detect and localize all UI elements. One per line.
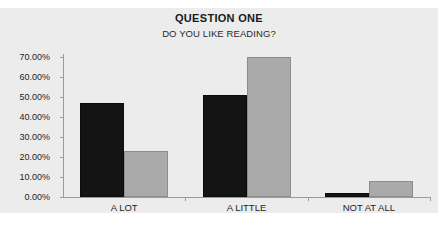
y-axis-tick-label: 70.00% — [0, 52, 50, 62]
chart-subtitle: DO YOU LIKE READING? — [0, 28, 438, 39]
bar-1-2 — [369, 181, 413, 197]
plot-area: 0.00%10.00%20.00%30.00%40.00%50.00%60.00… — [63, 50, 430, 197]
y-axis-tick-mark — [60, 57, 63, 58]
chart-title: QUESTION ONE — [0, 12, 438, 24]
x-axis-category-label: A LOT — [111, 202, 138, 213]
bar-1-1 — [247, 57, 291, 197]
y-axis-tick-label: 20.00% — [0, 152, 50, 162]
y-axis-tick-label: 10.00% — [0, 172, 50, 182]
y-axis-tick-mark — [60, 177, 63, 178]
x-axis-tick-mark — [308, 197, 309, 201]
y-axis-tick-mark — [60, 97, 63, 98]
x-axis-tick-mark — [185, 197, 186, 201]
bar-0-1 — [203, 95, 247, 197]
x-axis-tick-mark — [430, 197, 431, 201]
y-axis-tick-mark — [60, 77, 63, 78]
chart-container: QUESTION ONE DO YOU LIKE READING? 0.00%1… — [0, 0, 438, 234]
x-axis-category-label: A LITTLE — [227, 202, 267, 213]
y-axis-tick-mark — [60, 117, 63, 118]
y-axis-line — [63, 54, 64, 198]
x-axis-category-label: NOT AT ALL — [343, 202, 395, 213]
y-axis-tick-mark — [60, 157, 63, 158]
bar-1-0 — [124, 151, 168, 197]
y-axis-tick-label: 50.00% — [0, 92, 50, 102]
x-axis-line — [63, 197, 430, 198]
y-axis-tick-label: 0.00% — [0, 192, 50, 202]
bar-0-0 — [80, 103, 124, 197]
y-axis-tick-mark — [60, 137, 63, 138]
y-axis-tick-label: 40.00% — [0, 112, 50, 122]
y-axis-tick-mark — [60, 197, 63, 198]
y-axis-tick-label: 30.00% — [0, 132, 50, 142]
bar-0-2 — [325, 193, 369, 197]
y-axis-tick-label: 60.00% — [0, 72, 50, 82]
